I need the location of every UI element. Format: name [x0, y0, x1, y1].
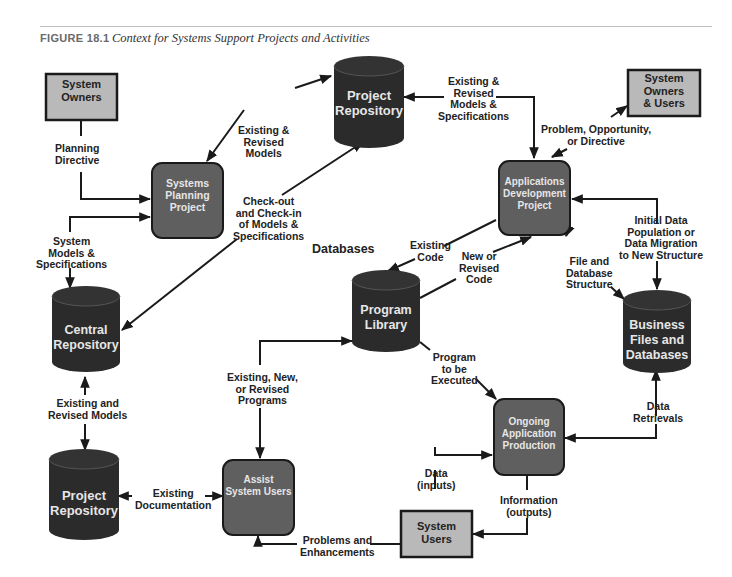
assist-system-users-label: Assist System Users	[223, 474, 294, 498]
flow-label-system-models-specs: System Models & Specifications	[36, 236, 107, 271]
project-repository-bottom-label: Project Repository	[49, 488, 119, 518]
flow-label-information-outputs: Information (outputs)	[500, 495, 558, 518]
flow-label-new-revised-code: New or Revised Code	[459, 251, 499, 286]
systems-planning-label: Systems Planning Project	[152, 177, 223, 213]
flow-label-existing-code: Existing Code	[410, 240, 451, 263]
flow-label-existing-documentation: Existing Documentation	[135, 488, 211, 511]
flow-label-data-retrievals: Data Retrievals	[633, 401, 683, 424]
project-repository-top-label: Project Repository	[334, 88, 404, 118]
flow-label-problem-opportunity: Problem, Opportunity, or Directive	[541, 124, 651, 147]
flow-label-existing-revised-models: Existing & Revised Models	[238, 125, 289, 160]
flow-label-existing-revised-models-specs: Existing & Revised Models & Specificatio…	[438, 76, 509, 122]
system-owners-label: System Owners	[46, 78, 117, 103]
flow-label-checkout-checkin: Check-out and Check-in of Models & Speci…	[233, 196, 304, 242]
central-repository-label: Central Repository	[52, 323, 120, 353]
flow-label-problems-enhancements: Problems and Enhancements	[300, 535, 375, 558]
business-files-label: Business Files and Databases	[623, 318, 691, 363]
system-users-label: System Users	[401, 520, 472, 545]
flow-label-file-db-structure: File and Database Structure	[566, 256, 613, 291]
system-owners-users-label: System Owners & Users	[628, 72, 700, 110]
applications-development-label: Applications Development Project	[499, 176, 570, 212]
flow-label-data-inputs: Data (inputs)	[417, 468, 456, 491]
flow-label-existing-and-revised-models: Existing and Revised Models	[48, 398, 127, 421]
flow-label-program-executed: Program to be Executed	[431, 352, 478, 387]
program-library-label: Program Library	[352, 303, 420, 333]
flow-label-planning-directive: Planning Directive	[55, 143, 99, 166]
ongoing-production-label: Ongoing Application Production	[494, 416, 564, 452]
flow-label-initial-data-population: Initial Data Population or Data Migratio…	[619, 215, 703, 261]
databases-section-label: Databases	[312, 244, 375, 256]
flow-label-existing-new-revised-programs: Existing, New, or Revised Programs	[227, 372, 298, 407]
